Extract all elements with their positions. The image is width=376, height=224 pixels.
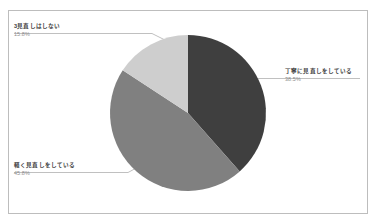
pie-chart-figure: 3見直しはしない 15.8% 軽く見直しをしている 45.8% 丁寧に見直しをし… (0, 0, 376, 224)
pie-label-teinei-value: 38.5% (285, 77, 353, 83)
pie-label-nashi: 3見直しはしない 15.8% (14, 24, 60, 38)
pie-label-karuku-value: 45.8% (14, 171, 76, 177)
pie-label-karuku: 軽く見直しをしている 45.8% (14, 163, 76, 177)
pie-label-nashi-value: 15.8% (14, 32, 60, 38)
pie-label-karuku-title: 軽く見直しをしている (14, 163, 76, 169)
pie-label-teinei-title: 丁寧に見直しをしている (285, 69, 353, 75)
pie-label-nashi-title: 3見直しはしない (14, 24, 60, 30)
pie-slices (110, 35, 266, 191)
pie-label-teinei: 丁寧に見直しをしている 38.5% (285, 69, 353, 83)
